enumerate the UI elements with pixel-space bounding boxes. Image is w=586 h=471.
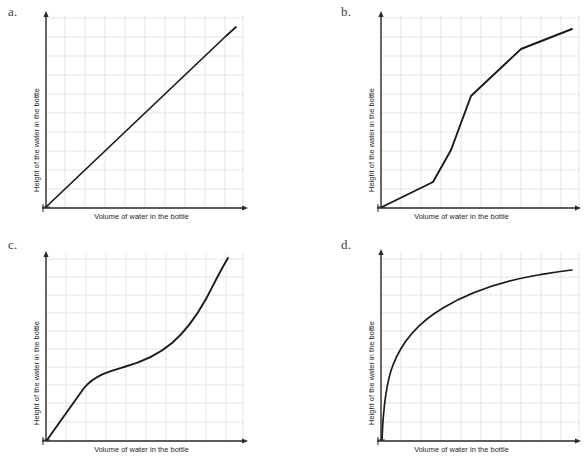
chart-c (0, 233, 293, 469)
curve-a (46, 27, 236, 207)
axes-c (42, 251, 248, 445)
panel-b: b. (293, 0, 586, 236)
y-axis-label-d: Height of the water in the bottle (367, 321, 376, 425)
axes-b (377, 11, 581, 212)
chart-b (293, 0, 586, 236)
axes-d (377, 249, 581, 445)
x-axis-label-a: Volume of water in the bottle (0, 212, 288, 221)
panel-d: d. (293, 233, 586, 469)
panel-a: a. (0, 0, 293, 236)
grid-b (381, 16, 579, 208)
y-axis-label-a: Height of the water in the bottle (32, 88, 41, 192)
chart-d (293, 233, 586, 469)
panel-c: c. (0, 233, 293, 469)
chart-a (0, 0, 293, 236)
y-axis-label-c: Height of the water in the bottle (32, 321, 41, 425)
x-axis-label-c: Volume of water in the bottle (0, 445, 288, 454)
y-axis-label-b: Height of the water in the bottle (367, 88, 376, 192)
curve-d (382, 270, 572, 440)
x-axis-label-d: Volume of water in the bottle (337, 445, 586, 454)
grid-c (46, 253, 243, 441)
x-axis-label-b: Volume of water in the bottle (337, 212, 586, 221)
grid-d (381, 251, 579, 441)
